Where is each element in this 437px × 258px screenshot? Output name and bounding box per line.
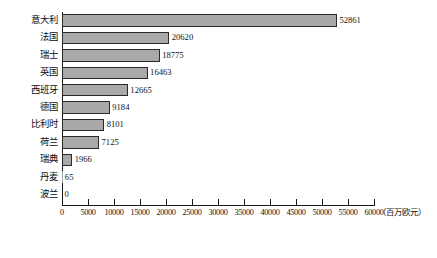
category-label: 英国	[0, 64, 58, 81]
x-tick-label: 35000	[235, 208, 254, 218]
x-tick-mark	[348, 199, 349, 206]
x-tick-mark	[244, 199, 245, 206]
bar-value-label: 65	[65, 171, 74, 184]
x-tick-mark	[374, 199, 375, 206]
x-tick-mark	[62, 199, 63, 206]
x-tick-label: 5000	[80, 208, 95, 218]
x-tick-mark	[218, 199, 219, 206]
x-tick-label: 45000	[287, 208, 306, 218]
category-label: 瑞典	[0, 151, 58, 168]
bar-value-label: 8101	[107, 118, 124, 131]
x-tick-label: 25000	[183, 208, 202, 218]
bar	[62, 154, 72, 166]
x-tick-mark	[322, 199, 323, 206]
x-tick-label: 50000	[313, 208, 332, 218]
category-label: 波兰	[0, 186, 58, 203]
bar-row: 丹麦65	[0, 169, 437, 186]
bar	[62, 14, 337, 26]
bar-value-label: 0	[65, 188, 69, 201]
bar	[62, 84, 128, 96]
x-tick-label: 0	[60, 208, 64, 218]
bar-value-label: 12665	[130, 84, 151, 97]
category-label: 法国	[0, 29, 58, 46]
bar-value-label: 1966	[75, 153, 92, 166]
category-label: 瑞士	[0, 47, 58, 64]
bar-row: 德国9184	[0, 99, 437, 116]
x-tick-label: 20000	[157, 208, 176, 218]
bar-row: 英国16463	[0, 64, 437, 81]
x-tick-label: 15000	[131, 208, 150, 218]
bar-value-label: 52861	[339, 14, 360, 27]
bar	[62, 136, 99, 148]
bar-value-label: 9184	[112, 101, 129, 114]
bar	[62, 67, 148, 79]
category-label: 德国	[0, 99, 58, 116]
bar-row: 法国20620	[0, 29, 437, 46]
x-tick-mark	[296, 199, 297, 206]
bar	[62, 32, 169, 44]
bar	[62, 101, 110, 113]
bar	[62, 49, 160, 61]
x-tick-label: 30000	[209, 208, 228, 218]
bar-value-label: 18775	[162, 49, 183, 62]
x-tick-mark	[166, 199, 167, 206]
x-tick-label: 55000	[339, 208, 358, 218]
x-tick-label: 10000	[105, 208, 124, 218]
bar-value-label: 7125	[102, 136, 119, 149]
x-tick-mark	[140, 199, 141, 206]
category-label: 西班牙	[0, 82, 58, 99]
bar-value-label: 16463	[150, 66, 171, 79]
x-tick-mark	[270, 199, 271, 206]
category-label: 意大利	[0, 12, 58, 29]
bar-row: 意大利52861	[0, 12, 437, 29]
x-axis-unit-label: （百万欧元）	[378, 207, 426, 218]
bar-row: 瑞典1966	[0, 151, 437, 168]
x-tick-mark	[114, 199, 115, 206]
bar-chart-figure: 意大利52861法国20620瑞士18775英国16463西班牙12665德国9…	[0, 0, 437, 258]
x-tick-mark	[192, 199, 193, 206]
category-label: 丹麦	[0, 169, 58, 186]
bar-row: 瑞士18775	[0, 47, 437, 64]
x-tick-mark	[88, 199, 89, 206]
category-label: 荷兰	[0, 134, 58, 151]
category-label: 比利时	[0, 116, 58, 133]
bar-row: 荷兰7125	[0, 134, 437, 151]
x-tick-label: 40000	[261, 208, 280, 218]
bar-value-label: 20620	[172, 31, 193, 44]
bar-row: 比利时8101	[0, 116, 437, 133]
bar-row: 西班牙12665	[0, 82, 437, 99]
bar	[62, 119, 104, 131]
